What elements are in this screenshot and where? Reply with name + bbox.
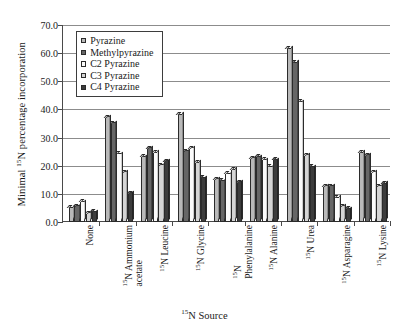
y-axis-tick-label: 70.0 xyxy=(41,20,59,31)
bar-side-face xyxy=(314,164,316,220)
bar xyxy=(237,181,242,222)
x-axis-tick-labels: None15N Ammoniumacetate15N Leucine15N Gl… xyxy=(62,225,389,303)
y-axis-tick-label: 0.0 xyxy=(46,217,59,228)
bar xyxy=(323,185,328,222)
y-axis-tick-label: 10.0 xyxy=(41,188,59,199)
bar-side-face xyxy=(193,146,195,220)
bar-side-face xyxy=(109,115,111,220)
bar-side-face xyxy=(386,181,388,220)
bar-side-face xyxy=(163,163,165,220)
bar-side-face xyxy=(224,178,226,220)
bar-side-face xyxy=(272,164,274,220)
bar-side-face xyxy=(291,46,293,220)
bar-side-face xyxy=(79,204,81,220)
bar-side-face xyxy=(241,180,243,220)
bar-side-face xyxy=(369,153,371,220)
legend-item: C2 Pyrazine xyxy=(81,58,154,70)
bar-side-face xyxy=(151,146,153,220)
bar xyxy=(304,154,309,222)
bar xyxy=(141,156,146,222)
y-axis-tick-label: 50.0 xyxy=(41,76,59,87)
bar-side-face xyxy=(199,160,201,220)
y-axis-tick-label: 20.0 xyxy=(41,160,59,171)
bar-side-face xyxy=(381,184,383,220)
bar-side-face xyxy=(121,151,123,219)
bar xyxy=(214,178,219,222)
bar xyxy=(178,114,183,222)
bar-side-face xyxy=(230,171,232,220)
bar xyxy=(128,192,133,222)
bar-side-face xyxy=(96,209,98,220)
bar-side-face xyxy=(90,211,92,220)
bar xyxy=(359,152,364,222)
bar-side-face xyxy=(308,153,310,220)
bar-top-face xyxy=(224,171,230,174)
y-axis-tick-label: 30.0 xyxy=(41,132,59,143)
bar-side-face xyxy=(277,157,279,220)
bar xyxy=(220,180,225,222)
bar-side-face xyxy=(302,99,304,219)
bar-side-face xyxy=(168,159,170,220)
bar xyxy=(86,212,91,222)
bar-side-face xyxy=(339,195,341,220)
legend-swatch-icon xyxy=(81,50,86,55)
legend-item-label: C4 Pyrazine xyxy=(90,81,139,93)
bar-side-face xyxy=(297,60,299,220)
bar-side-face xyxy=(205,175,207,219)
bar-side-face xyxy=(115,121,117,220)
bar-side-face xyxy=(266,157,268,220)
bar xyxy=(250,157,255,222)
legend-swatch-icon xyxy=(81,85,86,90)
bar-side-face xyxy=(73,205,75,220)
bar xyxy=(105,116,110,222)
bar-side-face xyxy=(157,150,159,220)
bar-side-face xyxy=(132,191,134,220)
bar xyxy=(329,185,334,222)
bar-side-face xyxy=(327,184,329,220)
bar-side-face xyxy=(218,177,220,220)
y-axis-tick-mark xyxy=(58,222,63,223)
legend-item-label: Methylpyrazine xyxy=(90,47,153,59)
y-axis-tick-label: 60.0 xyxy=(41,48,59,59)
bar xyxy=(69,207,74,222)
bar-side-face xyxy=(84,199,86,219)
bar-side-face xyxy=(344,204,346,220)
legend-swatch-icon xyxy=(81,61,86,66)
bar xyxy=(365,154,370,222)
bar-side-face xyxy=(260,154,262,220)
bar-side-face xyxy=(333,184,335,220)
legend-item-label: C3 Pyrazine xyxy=(90,70,139,82)
bar-side-face xyxy=(188,149,190,220)
legend-item: Pyrazine xyxy=(81,35,154,47)
bar-side-face xyxy=(235,167,237,220)
legend-item: Methylpyrazine xyxy=(81,47,154,59)
bar-chart: Minimal 15N percentage incorporation 70.… xyxy=(0,0,409,330)
bar xyxy=(153,152,158,222)
legend-swatch-icon xyxy=(81,38,86,43)
legend-item: C3 Pyrazine xyxy=(81,70,154,82)
plot-area: PyrazineMethylpyrazineC2 PyrazineC3 Pyra… xyxy=(62,25,389,222)
x-axis-tick-mark xyxy=(390,221,391,226)
bar xyxy=(147,147,152,222)
bar xyxy=(111,122,116,222)
y-axis-tick-labels: 70.060.050.040.030.020.010.00.0 xyxy=(14,0,58,330)
legend: PyrazineMethylpyrazineC2 PyrazineC3 Pyra… xyxy=(76,31,163,97)
bar xyxy=(195,162,200,223)
legend-item-label: Pyrazine xyxy=(90,35,125,47)
legend-swatch-icon xyxy=(81,73,86,78)
bar-side-face xyxy=(375,170,377,220)
bar xyxy=(262,159,267,222)
bar xyxy=(256,156,261,222)
bar-side-face xyxy=(182,112,184,220)
y-axis-tick-label: 40.0 xyxy=(41,104,59,115)
legend-item: C4 Pyrazine xyxy=(81,81,154,93)
bar xyxy=(287,48,292,222)
bar xyxy=(346,208,351,222)
x-axis-title: 15N Source xyxy=(0,308,409,321)
bar-side-face xyxy=(350,206,352,219)
legend-item-label: C2 Pyrazine xyxy=(90,58,139,70)
bar-side-face xyxy=(126,170,128,220)
bar xyxy=(371,171,376,222)
